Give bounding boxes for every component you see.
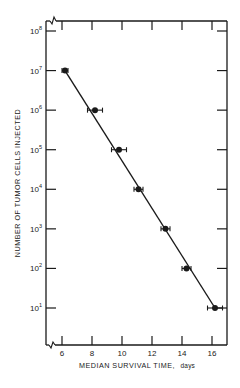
y-tick-label: 108 [30,25,42,36]
marker-dot [92,107,98,113]
x-axis-title-main: MEDIAN SURVIVAL TIME, [79,361,175,370]
x-tick-label: 8 [90,349,95,358]
data-point [182,265,191,271]
top-axis-break-icon [50,17,56,24]
marker-dot [136,186,142,192]
x-tick-label: 6 [60,349,65,358]
y-tick-label: 105 [30,144,42,155]
marker-dot [184,265,190,271]
data-point [88,107,103,113]
marker-dot [116,147,122,153]
y-axis-ticks: 101102103104105106107108 [30,25,227,313]
y-tick-label: 106 [30,104,42,115]
x-axis-title: MEDIAN SURVIVAL TIME, days [79,361,196,370]
data-point [62,68,68,74]
data-point [161,226,170,232]
x-tick-label: 16 [208,349,217,358]
data-point [208,305,223,311]
y-tick-label: 107 [30,65,42,76]
x-axis-break-icon [49,342,55,348]
marker-dot [212,305,218,311]
x-tick-label: 10 [118,349,127,358]
y-tick-label: 103 [30,223,42,234]
x-tick-label: 12 [148,349,157,358]
y-tick-label: 101 [30,302,42,313]
marker-dot [62,68,68,74]
y-tick-label: 104 [30,183,42,194]
chart-canvas: 101102103104105106107108 6810121416 NUMB… [0,0,240,388]
x-axis-title-unit: days [181,362,196,370]
x-tick-label: 14 [178,349,187,358]
marker-dot [163,226,169,232]
y-tick-label: 102 [30,262,42,273]
y-axis-title: NUMBER OF TUMOR CELLS INJECTED [13,109,22,257]
